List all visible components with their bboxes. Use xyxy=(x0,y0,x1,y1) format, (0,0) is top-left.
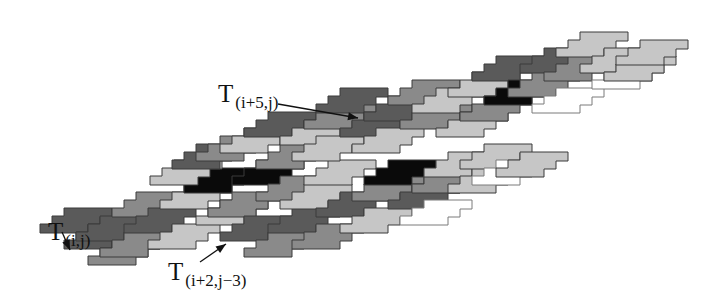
tile-layer xyxy=(40,32,688,265)
label-subscript: (i,j) xyxy=(65,231,90,250)
label-main: T xyxy=(218,80,233,107)
label-t-i-j: T(i,j) xyxy=(48,218,90,246)
label-main: T xyxy=(48,218,63,245)
label-t-i2-j3: T(i+2,j−3) xyxy=(168,258,246,286)
label-subscript: (i+2,j−3) xyxy=(185,271,246,290)
label-t-i5-j: T(i+5,j) xyxy=(218,80,278,108)
label-subscript: (i+5,j) xyxy=(235,93,278,112)
arrowhead-icon xyxy=(216,244,226,253)
label-main: T xyxy=(168,258,183,285)
tiling-diagram xyxy=(0,0,715,303)
